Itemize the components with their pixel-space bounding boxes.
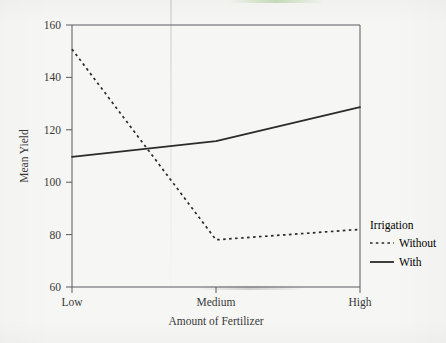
x-tick-label-medium: Medium bbox=[197, 296, 236, 308]
y-axis-title: Mean Yield bbox=[18, 129, 30, 183]
y-tick-label-140: 140 bbox=[44, 71, 62, 83]
y-tick-label-80: 80 bbox=[50, 229, 62, 241]
y-tick-label-100: 100 bbox=[44, 176, 62, 188]
x-axis-ticks bbox=[72, 287, 360, 293]
plot-frame bbox=[72, 25, 360, 287]
series-line-without bbox=[72, 49, 360, 240]
x-tick-label-high: High bbox=[349, 296, 372, 309]
legend: Irrigation Without With bbox=[370, 219, 437, 268]
x-tick-label-low: Low bbox=[61, 296, 83, 308]
legend-label-without: Without bbox=[399, 237, 437, 249]
y-tick-label-160: 160 bbox=[44, 19, 62, 31]
x-axis-title: Amount of Fertilizer bbox=[168, 315, 263, 327]
legend-label-with: With bbox=[399, 256, 422, 268]
y-tick-label-60: 60 bbox=[50, 281, 62, 293]
legend-title: Irrigation bbox=[370, 219, 414, 232]
y-axis-ticks bbox=[66, 25, 72, 287]
legend-entry-with[interactable]: With bbox=[370, 256, 422, 268]
legend-entry-without[interactable]: Without bbox=[370, 237, 437, 249]
series-line-with bbox=[72, 107, 360, 157]
interaction-plot-chart: 60 80 100 120 140 160 Low Medium High Am… bbox=[0, 0, 446, 343]
y-tick-label-120: 120 bbox=[44, 124, 62, 136]
